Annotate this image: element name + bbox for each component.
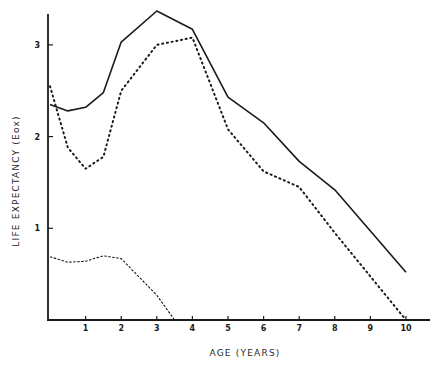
line-dashed	[50, 256, 175, 320]
y-tick-label: 3	[34, 41, 40, 50]
x-tick-label: 9	[368, 324, 374, 333]
series-lines	[50, 11, 406, 320]
x-tick-label: 2	[118, 324, 124, 333]
y-ticks: 123	[34, 41, 53, 233]
x-tick-label: 10	[400, 324, 412, 333]
x-tick-label: 1	[83, 324, 89, 333]
axes	[47, 14, 430, 321]
x-tick-label: 8	[332, 324, 338, 333]
x-axis-title: AGE (YEARS)	[209, 348, 280, 358]
x-tick-label: 4	[190, 324, 196, 333]
y-tick-label: 1	[34, 224, 40, 233]
line-dotted	[50, 38, 406, 320]
y-axis-title: LIFE EXPECTANCY (Eox)	[11, 115, 21, 246]
line-solid	[50, 11, 406, 272]
x-tick-label: 7	[296, 324, 302, 333]
x-tick-label: 6	[261, 324, 267, 333]
x-tick-label: 3	[154, 324, 160, 333]
y-tick-label: 2	[34, 133, 40, 142]
x-tick-label: 5	[225, 324, 231, 333]
life-expectancy-chart: 12345678910 123 AGE (YEARS) LIFE EXPECTA…	[0, 0, 442, 372]
x-ticks: 12345678910	[83, 316, 412, 333]
